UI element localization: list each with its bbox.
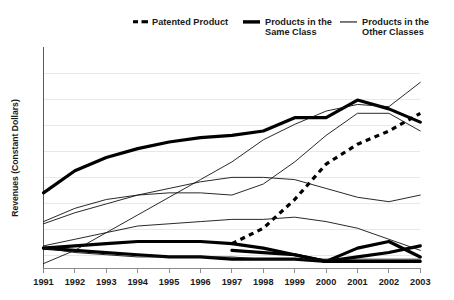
- legend-label-other-classes-line1: Products in the: [362, 17, 429, 27]
- thin-line-swatch-icon: [340, 21, 357, 22]
- legend-label-other-classes-line2: Other Classes: [362, 27, 424, 37]
- legend-label-patented-product: Patented Product: [152, 17, 228, 27]
- x-tick-label-2000: 2000: [316, 277, 336, 287]
- y-axis-title: Revenues (Constant Dollars): [10, 99, 20, 217]
- x-tick-label-1993: 1993: [96, 277, 116, 287]
- x-tick-label-1995: 1995: [159, 277, 179, 287]
- x-tick-label-1999: 1999: [284, 277, 304, 287]
- x-tick-label-2001: 2001: [347, 277, 367, 287]
- revenues-line-chart: Patented Product Products in the Same Cl…: [0, 0, 454, 300]
- x-tick-label-2002: 2002: [379, 277, 399, 287]
- x-tick-label-2003: 2003: [410, 277, 430, 287]
- thick-line-swatch-icon: [243, 20, 260, 23]
- x-tick-label-1998: 1998: [253, 277, 273, 287]
- legend-label-same-class-line1: Products in the: [265, 17, 332, 27]
- chart-canvas: Patented Product Products in the Same Cl…: [0, 0, 454, 300]
- x-tick-label-1997: 1997: [222, 277, 242, 287]
- x-tick-label-1991: 1991: [33, 277, 53, 287]
- x-tick-label-1992: 1992: [65, 277, 85, 287]
- x-tick-label-1996: 1996: [190, 277, 210, 287]
- legend-label-same-class-line2: Same Class: [265, 27, 317, 37]
- x-tick-label-1994: 1994: [127, 277, 148, 287]
